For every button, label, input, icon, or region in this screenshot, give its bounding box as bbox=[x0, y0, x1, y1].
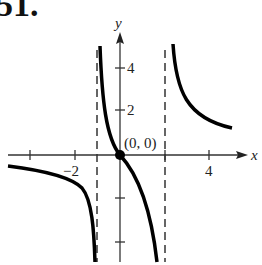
curve-left-branch bbox=[8, 166, 95, 262]
x-axis bbox=[8, 150, 248, 160]
origin-label: (0, 0) bbox=[124, 135, 157, 152]
rational-function-graph: x −2 4 y 4 2 (0, 0) bbox=[0, 0, 262, 265]
x-axis-label: x bbox=[250, 147, 258, 163]
curve-middle-branch bbox=[100, 46, 157, 262]
origin-point bbox=[115, 150, 125, 160]
curve-right-branch bbox=[173, 44, 232, 128]
y-tick-label-2: 2 bbox=[127, 102, 135, 118]
y-tick-label-4: 4 bbox=[127, 60, 135, 76]
x-tick-label-4: 4 bbox=[205, 163, 213, 179]
y-axis-label: y bbox=[113, 15, 122, 31]
